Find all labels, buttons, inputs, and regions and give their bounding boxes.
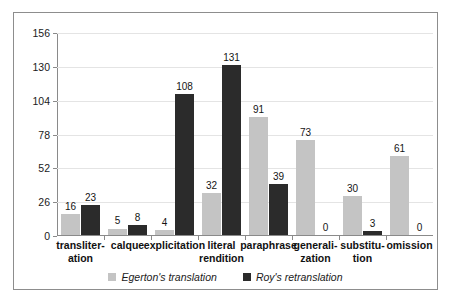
y-axis-tick-label: 156	[32, 27, 50, 39]
bar	[269, 184, 288, 235]
bar-value-label: 30	[347, 183, 358, 194]
y-axis-tick-label: 0	[44, 230, 50, 242]
category-label: transliter- ation	[56, 239, 104, 264]
bar	[108, 229, 127, 236]
y-axis-tick-mark	[53, 67, 57, 68]
bar-value-label: 16	[65, 201, 76, 212]
bar	[175, 94, 194, 235]
chart-legend: Egerton's translationRoy's retranslation	[14, 271, 437, 283]
y-axis-tick-mark	[53, 101, 57, 102]
bar-value-label: 4	[162, 217, 168, 228]
y-axis-tick-mark	[53, 33, 57, 34]
y-axis-tick-label: 104	[32, 95, 50, 107]
legend-label: Egerton's translation	[121, 271, 216, 283]
bar-value-label: 131	[223, 52, 240, 63]
y-axis-tick-label: 130	[32, 61, 50, 73]
bar	[363, 231, 382, 235]
bar	[202, 193, 221, 235]
y-axis-tick-label: 26	[38, 196, 50, 208]
plot-area: 1623584108321319139730303610	[57, 33, 433, 236]
bar-value-label: 8	[135, 212, 141, 223]
bar-value-label: 5	[115, 215, 121, 226]
bar	[296, 140, 315, 235]
category-label: literal rendition	[199, 239, 244, 264]
bar	[343, 196, 362, 235]
gridline	[57, 168, 433, 169]
legend-label: Roy's retranslation	[256, 271, 343, 283]
gridline	[57, 202, 433, 203]
category-label: omission	[386, 239, 432, 252]
bar-value-label: 0	[417, 222, 423, 233]
legend-swatch-icon	[243, 273, 251, 281]
y-axis-tick-mark	[53, 236, 57, 237]
category-label: explicitation	[144, 239, 205, 252]
bar-value-label: 61	[394, 143, 405, 154]
bar-value-label: 3	[370, 218, 376, 229]
y-axis-tick-label: 52	[38, 162, 50, 174]
y-axis-tick-mark	[53, 168, 57, 169]
y-axis-tick-mark	[53, 135, 57, 136]
category-label: substitu- tion	[340, 239, 384, 264]
legend-item[interactable]: Roy's retranslation	[243, 271, 343, 283]
category-label: generali- zation	[294, 239, 338, 264]
gridline	[57, 135, 433, 136]
y-axis: 0265278104130156	[14, 33, 50, 236]
bar	[222, 65, 241, 235]
bar	[390, 156, 409, 235]
bar-value-label: 32	[206, 180, 217, 191]
bar-value-label: 39	[273, 171, 284, 182]
bar-value-label: 108	[176, 81, 193, 92]
bar	[128, 225, 147, 235]
y-axis-tick-mark	[53, 202, 57, 203]
bar-value-label: 91	[253, 104, 264, 115]
gridline	[57, 101, 433, 102]
bar	[61, 214, 80, 235]
category-label: paraphrase	[240, 239, 297, 252]
gridline	[57, 33, 433, 34]
y-axis-tick-label: 78	[38, 129, 50, 141]
legend-swatch-icon	[108, 273, 116, 281]
bar-value-label: 0	[323, 222, 329, 233]
bar-value-label: 73	[300, 127, 311, 138]
bar	[81, 205, 100, 235]
legend-item[interactable]: Egerton's translation	[108, 271, 216, 283]
category-label: calque	[111, 239, 144, 252]
x-axis-category-labels: transliter- ationcalqueexplicitationlite…	[57, 239, 433, 273]
bar-value-label: 23	[85, 192, 96, 203]
bar	[249, 117, 268, 235]
gridline	[57, 67, 433, 68]
chart-container: 0265278104130156 16235841083213191397303…	[13, 12, 438, 290]
bar	[155, 230, 174, 235]
